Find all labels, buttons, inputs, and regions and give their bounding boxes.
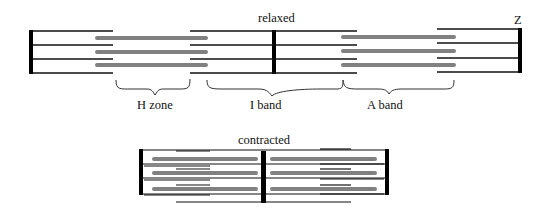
h-zone-brace — [116, 79, 190, 95]
z-disc-middle-contracted — [261, 151, 266, 203]
relaxed-sarcomere — [29, 28, 522, 96]
a-band-brace — [343, 80, 454, 94]
thick-filaments-left — [97, 38, 206, 65]
z-disc-left — [29, 30, 33, 74]
z-disc-left-contracted — [139, 149, 143, 195]
z-disc-middle — [272, 30, 276, 74]
i-band-brace — [207, 80, 343, 96]
sarcomere-diagram — [0, 0, 544, 217]
z-disc-right-contracted — [385, 149, 389, 195]
thick-filaments-right — [343, 37, 454, 65]
z-disc-right — [518, 28, 522, 73]
contracted-sarcomere — [139, 149, 389, 203]
